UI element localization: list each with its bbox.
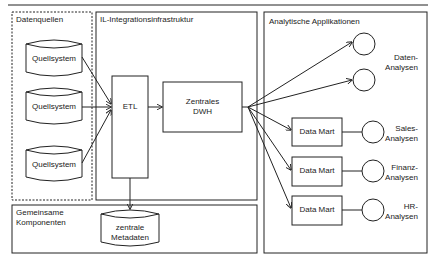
metadata-label-line1: zentrale — [101, 223, 159, 233]
hr-analysen-line2: Analysen — [384, 212, 418, 222]
group-title-shared-line2: Komponenten — [16, 218, 66, 228]
data-mart-label-3: Data Mart — [292, 205, 342, 215]
metadata-label-line2: Metadaten — [101, 233, 159, 243]
source-label-1: Quellsystem — [26, 54, 82, 64]
group-title-shared-line1: Gemeinsame — [16, 208, 64, 218]
analysis-circle-sales — [362, 121, 384, 143]
analysis-circle-daten-2 — [353, 69, 375, 91]
group-title-analytics: Analytische Applikationen — [269, 17, 360, 27]
analysis-circle-daten-1 — [353, 33, 375, 55]
hr-analysen-line1: HR- — [384, 202, 418, 212]
dwh-label-line2: DWH — [163, 107, 242, 117]
etl-label: ETL — [112, 102, 148, 112]
analysis-circle-finanz — [362, 160, 384, 182]
data-mart-label-2: Data Mart — [292, 166, 342, 176]
source-label-3: Quellsystem — [26, 160, 82, 170]
finanz-analysen-line2: Analysen — [384, 173, 418, 183]
group-title-integration: IL-Integrationsinfrastruktur — [100, 15, 193, 25]
sales-analysen-line1: Sales- — [384, 124, 418, 134]
sales-analysen-line2: Analysen — [384, 134, 418, 144]
source-label-2: Quellsystem — [26, 102, 82, 112]
etl-box — [112, 76, 148, 178]
group-title-datenquellen: Datenquellen — [16, 15, 63, 25]
data-mart-label-1: Data Mart — [292, 127, 342, 137]
dwh-label-line1: Zentrales — [163, 97, 242, 107]
analysis-circle-hr — [362, 199, 384, 221]
finanz-analysen-line1: Finanz- — [384, 163, 418, 173]
daten-analysen-line2: Analysen — [376, 63, 418, 73]
daten-analysen-line1: Daten- — [376, 53, 418, 63]
